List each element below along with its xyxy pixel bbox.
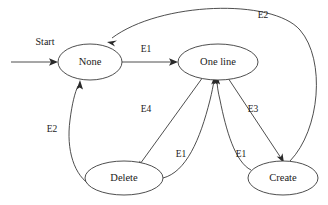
- edge-label-create-to-one-line: E1: [236, 149, 247, 159]
- edge-delete-to-none: [69, 80, 92, 186]
- edge-label-one-line-to-delete: E4: [141, 104, 152, 114]
- start-label: Start: [36, 36, 55, 47]
- state-node-create[interactable]: Create: [248, 161, 318, 195]
- edge-label-one-line-to-create: E3: [248, 104, 259, 114]
- one-line-label: One line: [200, 56, 236, 67]
- one-line-to-create-path: [228, 78, 281, 158]
- edge-label-delete-to-one-line: E1: [176, 149, 187, 159]
- state-diagram-canvas: None One line Delete Create Start E1 E2 …: [0, 0, 328, 205]
- delete-to-none-arrowhead: [77, 80, 84, 90]
- edge-label-delete-to-none: E2: [47, 124, 58, 134]
- create-to-none-arrowhead: [107, 41, 117, 47]
- create-to-none-path: [112, 8, 316, 161]
- delete-label: Delete: [110, 172, 138, 183]
- create-label: Create: [269, 172, 297, 183]
- delete-to-one-line-path: [163, 81, 214, 178]
- edge-none-to-one-line: [122, 58, 178, 66]
- none-label: None: [79, 56, 102, 67]
- edge-label-none-to-one-line: E1: [141, 44, 152, 54]
- edge-delete-to-one-line: [163, 75, 218, 178]
- edge-start-entry: [11, 58, 58, 66]
- edge-label-create-to-none: E2: [258, 10, 269, 20]
- edge-one-line-to-delete: [136, 77, 203, 169]
- one-line-to-delete-path: [140, 77, 203, 164]
- state-node-delete[interactable]: Delete: [85, 161, 163, 195]
- edge-create-to-none: [107, 8, 316, 161]
- state-node-none[interactable]: None: [58, 44, 122, 80]
- state-diagram-container: None One line Delete Create Start E1 E2 …: [0, 0, 328, 205]
- state-node-one-line[interactable]: One line: [178, 44, 258, 80]
